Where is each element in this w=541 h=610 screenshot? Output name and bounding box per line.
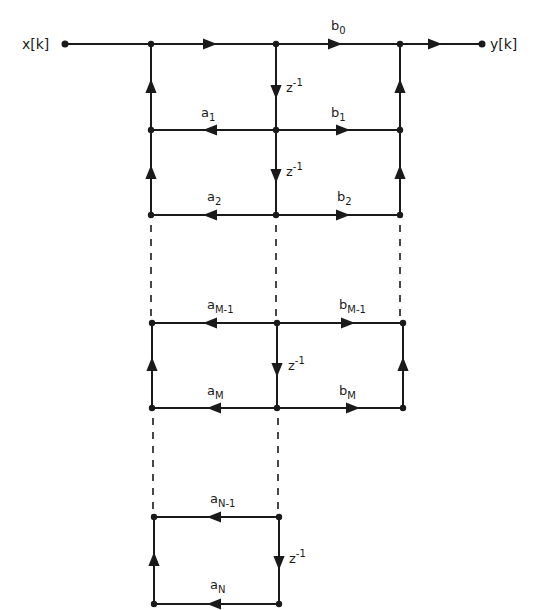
coef-a2: a2: [207, 189, 221, 207]
input-node: [62, 41, 69, 48]
node: [149, 405, 155, 411]
node: [273, 41, 279, 47]
node: [274, 320, 280, 326]
node: [273, 212, 279, 218]
node: [151, 514, 157, 520]
coef-a1: a1: [201, 105, 215, 123]
node: [397, 127, 403, 133]
node: [149, 320, 155, 326]
output-node: [479, 41, 486, 48]
node: [273, 127, 279, 133]
node: [274, 405, 280, 411]
node: [151, 601, 157, 607]
coef-a-m: aM: [207, 383, 224, 401]
node: [148, 41, 154, 47]
node: [397, 212, 403, 218]
node: [400, 320, 406, 326]
delay-label-2: z-1: [286, 161, 303, 179]
coef-b-m: bM: [339, 383, 356, 401]
coef-b-m-1: bM-1: [339, 297, 366, 315]
input-label: x[k]: [22, 36, 49, 52]
delay-label-m: z-1: [288, 355, 305, 373]
delay-label-1: z-1: [286, 77, 303, 95]
node: [276, 514, 282, 520]
coef-b0: b0: [331, 18, 346, 36]
node: [400, 405, 406, 411]
signal-flow-diagram: x[k] y[k] b0 a1 b1 a2 b2 aM-1 bM-1 aM bM…: [0, 0, 541, 610]
coef-b2: b2: [337, 189, 352, 207]
node: [148, 212, 154, 218]
node: [148, 127, 154, 133]
coef-a-n-1: aN-1: [210, 491, 235, 509]
node: [397, 41, 403, 47]
coef-a-n: aN: [210, 577, 225, 595]
node: [276, 601, 282, 607]
coef-a-m-1: aM-1: [207, 297, 234, 315]
delay-label-n: z-1: [289, 548, 306, 566]
coef-b1: b1: [331, 105, 346, 123]
output-label: y[k]: [490, 36, 517, 52]
